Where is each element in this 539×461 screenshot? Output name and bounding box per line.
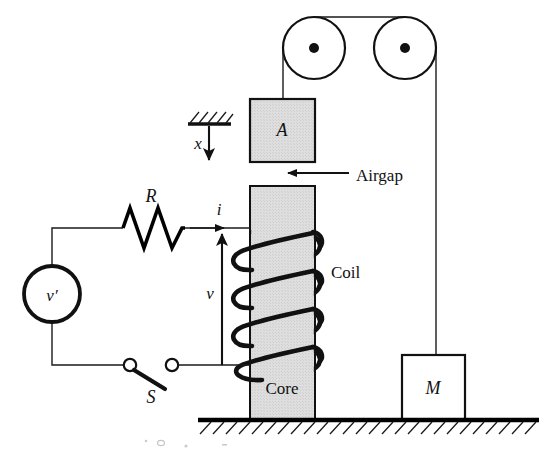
- electromagnet-diagram: A M Core Coil Airgap R v′ i v S x: [0, 0, 539, 461]
- coil-label: Coil: [331, 263, 361, 282]
- scan-artifacts: [145, 440, 227, 448]
- ground-hatching: [200, 422, 536, 434]
- left-pulley-hub-icon: [309, 43, 319, 53]
- displacement-label: x: [193, 134, 202, 153]
- right-pulley-hub-icon: [400, 43, 410, 53]
- voltage-label: v: [206, 284, 214, 303]
- current-label: i: [217, 200, 222, 219]
- armature-label: A: [276, 120, 289, 140]
- ground: [198, 420, 539, 434]
- wire-source-to-resistor: [52, 228, 123, 266]
- wire-source-to-switch: [52, 322, 124, 365]
- switch-right-terminal[interactable]: [166, 359, 178, 371]
- resistor-label: R: [145, 186, 157, 206]
- mass-label: M: [425, 378, 442, 398]
- switch[interactable]: [124, 359, 178, 389]
- left-pulley: [283, 17, 345, 79]
- resistor: [123, 208, 185, 248]
- airgap-label: Airgap: [356, 166, 403, 185]
- switch-label: S: [147, 387, 156, 407]
- resistor-zigzag: [123, 208, 185, 248]
- source-label: v′: [46, 286, 58, 305]
- diagram-canvas: A M Core Coil Airgap R v′ i v S x: [0, 0, 539, 461]
- support-hatching: [190, 112, 233, 123]
- core-label: Core: [265, 379, 298, 398]
- right-pulley: [374, 17, 436, 79]
